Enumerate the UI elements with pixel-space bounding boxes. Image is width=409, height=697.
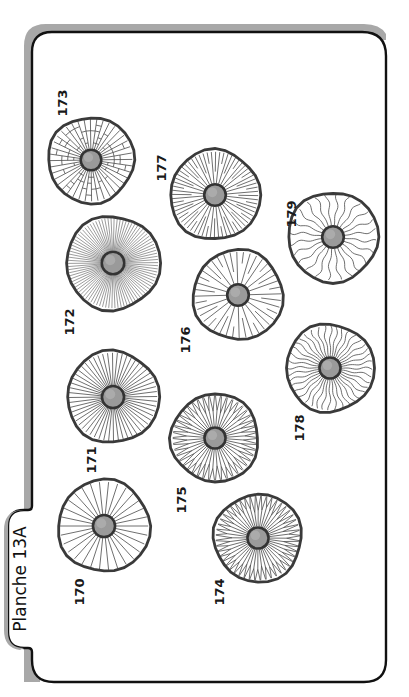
stem-highlight xyxy=(251,531,261,541)
cap-label-175: 175 xyxy=(174,486,189,513)
cap-174 xyxy=(213,494,301,582)
stem-highlight xyxy=(105,255,115,265)
cap-label-174: 174 xyxy=(212,578,227,605)
cap-label-179: 179 xyxy=(284,200,299,227)
stem-highlight xyxy=(96,518,106,528)
stem-highlight xyxy=(208,431,218,441)
plate-title: Planche 13A xyxy=(10,526,30,632)
cap-label-178: 178 xyxy=(292,414,307,441)
stem-highlight xyxy=(84,153,93,162)
stem-highlight xyxy=(105,389,115,399)
cap-label-170: 170 xyxy=(72,578,87,605)
stem-highlight xyxy=(325,229,335,239)
plate-illustration: Planche 13A 1701711721731741751761771781… xyxy=(0,0,409,697)
cap-label-173: 173 xyxy=(55,89,70,116)
cap-label-172: 172 xyxy=(62,308,77,335)
stem-highlight xyxy=(207,187,217,197)
cap-label-176: 176 xyxy=(178,326,193,353)
stem-highlight xyxy=(323,361,333,371)
cap-178 xyxy=(287,324,375,412)
cap-label-177: 177 xyxy=(154,154,169,181)
cap-label-171: 171 xyxy=(84,446,99,473)
cap-176 xyxy=(193,249,283,339)
stem-highlight xyxy=(230,287,240,297)
